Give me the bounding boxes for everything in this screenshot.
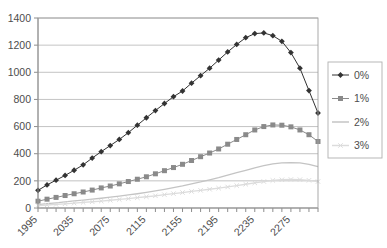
legend-label: 0%	[354, 69, 369, 81]
x-tick-label: 1995	[14, 213, 39, 238]
data-point	[279, 123, 284, 128]
data-point	[63, 193, 68, 198]
data-point	[270, 122, 275, 127]
series-2pct	[38, 163, 318, 205]
y-tick-label: 600	[13, 120, 31, 132]
data-point	[126, 179, 131, 184]
y-tick-label: 1000	[8, 66, 32, 78]
data-point	[234, 137, 239, 142]
y-tick-marks-group	[34, 18, 38, 208]
data-point	[261, 124, 266, 129]
x-tick-label: 2195	[195, 213, 220, 238]
data-point	[108, 184, 113, 189]
data-point	[62, 173, 68, 179]
data-point	[216, 146, 221, 151]
data-point	[306, 132, 311, 137]
data-point	[117, 181, 122, 186]
data-point	[107, 143, 113, 149]
y-tick-label: 1200	[8, 39, 32, 51]
x-tick-label: 2155	[159, 213, 184, 238]
data-point	[53, 177, 59, 183]
line-chart: 0200400600800100012001400 19952035207521…	[0, 0, 387, 248]
legend-swatch-marker	[338, 96, 343, 101]
data-point	[162, 168, 167, 173]
y-tick-label: 200	[13, 175, 31, 187]
data-point	[243, 132, 248, 137]
chart-legend: 0%1%2%3%	[328, 62, 382, 158]
data-point	[72, 191, 77, 196]
y-tick-label: 1400	[8, 12, 32, 24]
x-tick-label: 2275	[267, 213, 292, 238]
data-point	[45, 197, 50, 202]
plot-area-border	[38, 18, 318, 208]
chart-canvas: 0200400600800100012001400 19952035207521…	[0, 0, 387, 248]
x-tick-label: 2115	[123, 213, 148, 238]
data-point	[99, 185, 104, 190]
series-line-0pct	[38, 33, 318, 190]
data-point	[144, 174, 149, 179]
data-point	[71, 167, 77, 173]
data-point	[153, 171, 158, 176]
y-tick-label: 800	[13, 93, 31, 105]
x-tick-marks-group	[38, 208, 318, 212]
y-tick-label: 400	[13, 147, 31, 159]
data-point	[270, 33, 276, 39]
data-point	[135, 177, 140, 182]
data-point	[180, 162, 185, 167]
x-tick-label: 2235	[231, 213, 256, 238]
y-axis-tick-labels: 0200400600800100012001400	[8, 12, 32, 214]
y-tick-label: 0	[25, 202, 31, 214]
legend-label: 3%	[354, 139, 369, 151]
legend-label: 1%	[354, 92, 369, 104]
legend-label: 2%	[354, 116, 369, 128]
data-point	[306, 88, 312, 94]
data-point	[171, 165, 176, 170]
data-point	[189, 158, 194, 163]
series-line-2pct	[38, 163, 318, 205]
data-point	[261, 30, 267, 36]
data-point	[54, 195, 59, 200]
x-axis-tick-labels: 19952035207521152155219522352275	[14, 213, 292, 238]
data-point	[81, 189, 86, 194]
series-0pct	[35, 30, 321, 193]
data-point	[198, 154, 203, 159]
data-point	[225, 142, 230, 147]
data-point	[297, 65, 303, 71]
gridlines-group	[38, 18, 318, 208]
data-point	[252, 31, 258, 37]
x-tick-label: 2075	[87, 213, 112, 238]
data-point	[288, 124, 293, 129]
data-point	[44, 182, 50, 188]
data-point	[297, 127, 302, 132]
data-point	[252, 127, 257, 132]
x-tick-label: 2035	[51, 213, 76, 238]
data-point	[90, 188, 95, 193]
data-point	[207, 151, 212, 156]
